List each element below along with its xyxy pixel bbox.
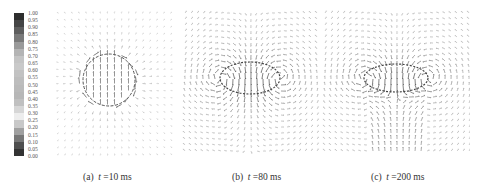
colorbar-tick-label: 0.70 <box>28 53 38 59</box>
colorbar-segment <box>14 92 24 99</box>
colorbar-segment <box>14 56 24 63</box>
colorbar-tick-label: 1.00 <box>28 10 38 16</box>
colorbar-tick-label: 0.55 <box>28 74 38 80</box>
colorbar-tick-label: 0.20 <box>28 124 38 130</box>
colorbar-tick-label: 0.45 <box>28 89 38 95</box>
caption-time-value: =10 ms <box>103 172 131 182</box>
colorbar-tick-label: 0.00 <box>28 153 38 159</box>
colorbar-segment <box>14 20 24 27</box>
colorbar-tick-label: 0.05 <box>28 146 38 152</box>
caption-label: (a) <box>83 172 94 182</box>
colorbar-segment <box>14 142 24 149</box>
panel-a-vector-field <box>55 8 175 158</box>
colorbar-tick-label: 0.65 <box>28 60 38 66</box>
colorbar-segment <box>14 85 24 92</box>
caption-panel-b: (b) t =80 ms <box>232 172 281 182</box>
panel-b-vector-field <box>182 8 322 158</box>
colorbar-segment <box>14 135 24 142</box>
colorbar-tick-label: 0.25 <box>28 117 38 123</box>
colorbar-tick-label: 0.15 <box>28 132 38 138</box>
colorbar-tick-label: 0.80 <box>28 39 38 45</box>
caption-time-value: =200 ms <box>391 172 424 182</box>
caption-label: (b) <box>232 172 243 182</box>
colorbar-segment <box>14 99 24 106</box>
caption-panel-c: (c) t =200 ms <box>371 172 424 182</box>
colorbar-segment <box>14 120 24 127</box>
colorbar-tick-label: 0.40 <box>28 96 38 102</box>
colorbar-segment <box>14 128 24 135</box>
caption-time-value: =80 ms <box>253 172 281 182</box>
panel-c-vector-field <box>322 8 470 158</box>
colorbar-segment <box>14 113 24 120</box>
colorbar-segment <box>14 34 24 41</box>
colorbar-tick-label: 0.35 <box>28 103 38 109</box>
colorbar-tick-labels: 1.000.950.900.850.800.750.700.650.600.55… <box>28 10 52 159</box>
colorbar-segment <box>14 77 24 84</box>
colorbar-tick-label: 0.60 <box>28 67 38 73</box>
colorbar-segment <box>14 106 24 113</box>
colorbar-tick-label: 0.85 <box>28 31 38 37</box>
colorbar-segment <box>14 42 24 49</box>
colorbar-tick-label: 0.50 <box>28 82 38 88</box>
colorbar-tick-label: 0.10 <box>28 139 38 145</box>
colorbar-tick-label: 0.95 <box>28 17 38 23</box>
caption-label: (c) <box>371 172 382 182</box>
figure: 1.000.950.900.850.800.750.700.650.600.55… <box>0 0 477 189</box>
colorbar-segment <box>14 13 24 20</box>
colorbar-tick-label: 0.30 <box>28 110 38 116</box>
caption-panel-a: (a) t =10 ms <box>83 172 132 182</box>
caption-time-symbol: t <box>248 172 251 182</box>
colorbar-segment <box>14 63 24 70</box>
caption-time-symbol: t <box>98 172 101 182</box>
colorbar-tick-label: 0.75 <box>28 46 38 52</box>
colorbar <box>14 13 24 156</box>
caption-time-symbol: t <box>386 172 389 182</box>
colorbar-segment <box>14 27 24 34</box>
colorbar-tick-label: 0.90 <box>28 24 38 30</box>
colorbar-segment <box>14 70 24 77</box>
colorbar-segment <box>14 49 24 56</box>
colorbar-segment <box>14 149 24 156</box>
